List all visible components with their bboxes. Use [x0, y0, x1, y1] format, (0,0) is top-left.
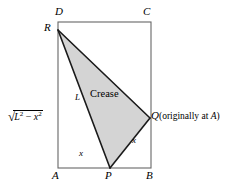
vertex-label-a: A — [52, 170, 59, 181]
vertex-label-r: R — [44, 22, 51, 33]
vertex-label-c: C — [143, 6, 150, 17]
x-label-bottom: x — [79, 149, 83, 158]
radicand-operator: − — [23, 111, 34, 122]
geometry-figure: D C B A R Q P Crease L x x (originally a… — [0, 0, 238, 186]
figure-canvas — [0, 0, 238, 186]
q-annotation-note: (originally at A) — [159, 112, 220, 122]
vertex-label-d: D — [55, 6, 63, 17]
vertex-label-b: B — [146, 170, 153, 181]
x-label-slant: x — [132, 136, 136, 145]
side-length-l-label: L — [75, 93, 80, 102]
radical-expression-label: √L2 − x2 — [8, 109, 43, 125]
q-note-prefix: (originally at — [159, 111, 211, 121]
crease-label: Crease — [90, 89, 119, 100]
q-note-suffix: ) — [217, 111, 220, 121]
radicand-exp-2: 2 — [38, 110, 42, 118]
radicand-group: L2 − x2 — [13, 110, 43, 122]
vertex-label-p: P — [105, 170, 112, 181]
vertex-label-q: Q — [151, 110, 159, 121]
